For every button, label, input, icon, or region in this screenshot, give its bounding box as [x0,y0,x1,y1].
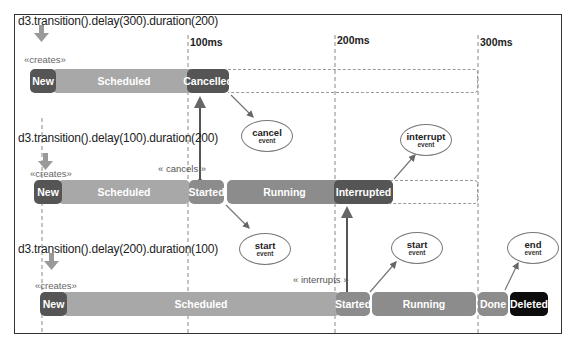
transition-3-code: d3.transition().delay(200).duration(100) [18,242,218,256]
event-subtitle: event [409,250,426,257]
state-started: Started [336,292,370,316]
transition-1-creates-label: «creates» [24,54,66,65]
transition-2-code: d3.transition().delay(100).duration(200) [18,131,218,145]
transition-1-ghost-lane [228,69,478,93]
state-running: Running [227,180,342,204]
transition-3-creates-label: «creates» [35,280,77,291]
transition-1-code: d3.transition().delay(300).duration(200) [18,14,218,28]
state-done: Done [478,292,508,316]
start-event: start event [239,233,291,265]
transition-2-creates-label: «creates» [30,168,72,179]
event-title: cancel [252,128,282,138]
event-subtitle: event [257,251,274,258]
state-scheduled: Scheduled [62,292,340,316]
state-new: New [40,292,67,316]
tick-200ms: 200ms [337,34,370,46]
state-new: New [30,69,56,93]
event-title: start [255,241,276,251]
event-title: interrupt [406,132,445,142]
interrupts-label: « interrupts » [293,274,348,285]
cancel-event: cancel event [241,120,293,152]
state-scheduled: Scheduled [58,180,190,204]
end-event: end event [507,232,559,264]
cancels-label: « cancels » [158,163,206,174]
state-deleted: Deleted [510,292,548,316]
tick-300ms: 300ms [480,36,513,48]
event-subtitle: event [418,142,435,149]
event-subtitle: event [525,250,542,257]
event-title: end [525,240,542,250]
state-cancelled: Cancelled [187,69,229,93]
transition-2-ghost-lane [390,180,478,204]
event-title: start [407,240,428,250]
state-started: Started [189,180,224,204]
tick-100ms: 100ms [190,36,223,48]
state-scheduled: Scheduled [52,69,196,93]
state-interrupted: Interrupted [334,180,393,204]
start-event: start event [391,232,443,264]
event-subtitle: event [259,138,276,145]
interrupt-event: interrupt event [400,124,452,156]
state-new: New [34,180,62,204]
state-running: Running [372,292,476,316]
